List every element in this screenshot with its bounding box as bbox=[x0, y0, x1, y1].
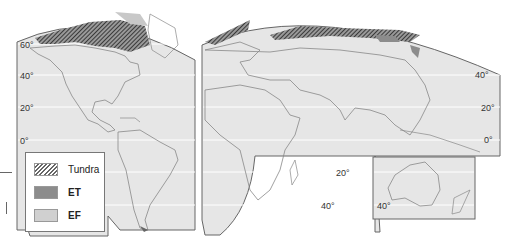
legend-item-ef: EF bbox=[34, 209, 104, 222]
lat-label-20-eurasia: 20° bbox=[481, 104, 495, 113]
legend-item-et: ET bbox=[34, 186, 104, 199]
tundra-swatch-icon bbox=[34, 163, 58, 176]
lat-label-40-africa: 40° bbox=[321, 202, 335, 211]
lat-label-40-americas: 40° bbox=[20, 72, 34, 81]
lat-label-40-australia: 40° bbox=[377, 202, 391, 211]
ef-swatch-icon bbox=[34, 209, 58, 222]
legend-item-tundra: Tundra bbox=[34, 163, 104, 176]
legend-label: EF bbox=[68, 210, 81, 221]
legend-label: ET bbox=[68, 187, 81, 198]
legend-label: Tundra bbox=[68, 164, 99, 175]
divider-line bbox=[6, 202, 7, 214]
legend: Tundra ET EF bbox=[25, 152, 105, 232]
lat-label-20-americas: 20° bbox=[20, 104, 34, 113]
et-swatch-icon bbox=[34, 186, 58, 199]
lat-label-0-americas: 0° bbox=[20, 137, 29, 146]
lat-label-60-americas: 60° bbox=[20, 41, 34, 50]
lat-label-40-eurasia: 40° bbox=[475, 71, 489, 80]
lat-label-0-eurasia: 0° bbox=[484, 136, 493, 145]
divider-line bbox=[0, 172, 12, 173]
lat-label-20-africa: 20° bbox=[336, 169, 350, 178]
